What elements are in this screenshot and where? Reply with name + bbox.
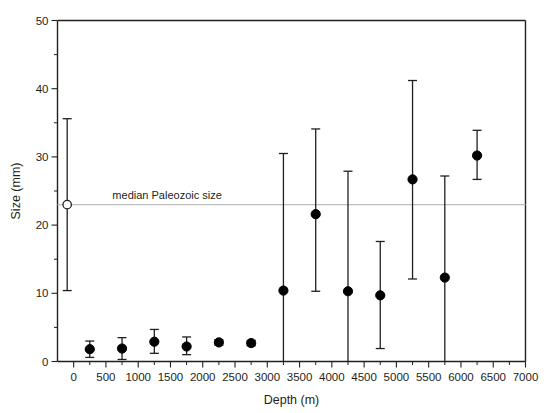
y-tick-label: 0 [42,356,48,368]
data-point [214,338,223,347]
x-tick-label: 2000 [190,371,216,383]
x-tick-label: 3500 [287,371,313,383]
x-tick-label: 0 [70,371,76,383]
open-circle-marker [63,200,71,208]
filled-circle-marker [311,210,320,219]
x-tick-label: 1000 [125,371,151,383]
y-tick-label: 50 [36,15,49,27]
y-tick-label: 10 [36,287,49,299]
plot-canvas: 01020304050 0500100015002000250030003500… [0,0,547,413]
data-point [182,337,191,355]
x-tick-label: 500 [96,371,115,383]
filled-circle-marker [150,337,159,346]
y-tick-label: 20 [36,219,49,231]
data-point [279,153,288,361]
data-series-group [63,81,482,362]
x-tick-label: 7000 [513,371,539,383]
x-tick-label: 4000 [319,371,345,383]
filled-circle-marker [472,151,481,160]
filled-circle-marker [376,291,385,300]
x-tick-label: 2500 [222,371,248,383]
data-point [472,130,481,179]
series-1 [63,119,72,291]
filled-circle-marker [85,345,94,354]
data-point [150,329,159,353]
scatter-plot-figure: 01020304050 0500100015002000250030003500… [0,0,547,413]
y-axis-tick-labels: 01020304050 [36,15,49,368]
data-point [311,129,320,291]
x-axis-title: Depth (m) [264,393,320,407]
filled-circle-marker [214,338,223,347]
filled-circle-marker [279,286,288,295]
x-axis-tick-labels: 0500100015002000250030003500400045005000… [70,371,538,383]
y-axis-title: Size (mm) [9,163,23,220]
filled-circle-marker [408,175,417,184]
x-tick-label: 5000 [384,371,410,383]
data-point [63,119,72,291]
data-point [85,341,94,357]
data-point [343,171,352,361]
data-point [440,176,449,362]
x-tick-label: 3000 [254,371,280,383]
filled-circle-marker [247,338,256,347]
data-point [408,81,417,279]
data-point [247,338,256,347]
x-tick-label: 6500 [480,371,506,383]
data-point [376,241,385,348]
filled-circle-marker [343,287,352,296]
series-2 [85,81,482,362]
x-tick-label: 6000 [448,371,474,383]
x-tick-label: 1500 [158,371,184,383]
y-axis-ticks [52,21,58,362]
median-line-annotation: median Paleozoic size [112,189,221,201]
filled-circle-marker [440,273,449,282]
filled-circle-marker [117,344,126,353]
x-tick-label: 5500 [416,371,442,383]
x-tick-label: 4500 [351,371,377,383]
filled-circle-marker [182,342,191,351]
y-tick-label: 40 [36,83,49,95]
y-tick-label: 30 [36,151,49,163]
data-point [117,338,126,360]
x-axis-ticks [74,362,526,368]
